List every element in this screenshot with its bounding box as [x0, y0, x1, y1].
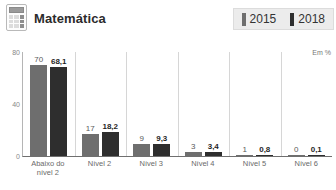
x-axis-label-3: Nível 3 [125, 159, 177, 168]
x-axis-label-1: Abaixo donível 2 [22, 159, 74, 177]
bar-2015-3[interactable]: 9 [133, 144, 150, 156]
legend-label-2015: 2015 [250, 12, 277, 26]
bar-value-label: 70 [34, 55, 43, 64]
bar-chart: Em % 04080 7068,11718,299,333,410,800,1 … [0, 46, 336, 190]
x-axis-label-6: Nível 6 [280, 159, 332, 168]
bar-value-label: 1 [243, 145, 247, 154]
legend-label-2018: 2018 [298, 12, 325, 26]
y-axis-tick: 80 [12, 49, 20, 56]
calculator-key [20, 15, 24, 19]
y-axis-tick: 0 [16, 153, 20, 160]
calculator-keys [9, 15, 24, 28]
bar-value-label: 9 [140, 134, 144, 143]
calculator-key [9, 15, 13, 19]
bar-2015-6[interactable]: 0 [288, 155, 305, 156]
legend-item-2015[interactable]: 2015 [242, 12, 277, 26]
x-axis-label-line: Nível 5 [229, 159, 281, 168]
plot-area: 04080 7068,11718,299,333,410,800,1 [22, 52, 332, 157]
calculator-key [9, 24, 13, 28]
bar-fill [288, 155, 305, 156]
bar-fill [102, 132, 119, 156]
bar-fill [185, 152, 202, 156]
bar-fill [236, 155, 253, 156]
x-axis-label-line: nível 2 [22, 168, 74, 177]
bar-2018-1[interactable]: 68,1 [50, 67, 67, 156]
calculator-key [14, 24, 18, 28]
calculator-key [20, 24, 24, 28]
calculator-key [14, 20, 18, 24]
bar-fill [153, 144, 170, 156]
bar-group: 7068,1 [23, 52, 75, 156]
bar-2015-2[interactable]: 17 [82, 134, 99, 156]
bar-value-label: 0,1 [311, 145, 322, 154]
bar-group: 00,1 [281, 52, 333, 156]
bar-2015-4[interactable]: 3 [185, 152, 202, 156]
bar-group: 1718,2 [75, 52, 127, 156]
calculator-key [14, 15, 18, 19]
x-axis-label-line: Nível 4 [177, 159, 229, 168]
legend-item-2018[interactable]: 2018 [290, 12, 325, 26]
y-axis-tick: 40 [12, 101, 20, 108]
bar-value-label: 17 [86, 124, 95, 133]
bar-value-label: 0 [294, 145, 298, 154]
bar-fill [133, 144, 150, 156]
legend-swatch-2018 [290, 13, 294, 26]
bar-fill [308, 155, 325, 156]
calculator-icon [6, 4, 27, 31]
bar-groups: 7068,11718,299,333,410,800,1 [23, 52, 332, 156]
calculator-screen [9, 7, 24, 13]
bar-value-label: 9,3 [156, 134, 167, 143]
bar-2018-5[interactable]: 0,8 [256, 155, 273, 156]
calculator-key [20, 20, 24, 24]
bar-2018-6[interactable]: 0,1 [308, 155, 325, 156]
bar-group: 33,4 [178, 52, 230, 156]
chart-header: Matemática 2015 2018 [0, 0, 336, 42]
bar-fill [30, 65, 47, 156]
bar-group: 99,3 [126, 52, 178, 156]
bar-group: 10,8 [229, 52, 281, 156]
bar-value-label: 68,1 [51, 57, 67, 66]
x-axis-label-line: Nível 6 [280, 159, 332, 168]
x-axis-label-4: Nível 4 [177, 159, 229, 168]
bar-2018-4[interactable]: 3,4 [205, 152, 222, 156]
bar-value-label: 18,2 [102, 122, 118, 131]
bar-fill [256, 155, 273, 156]
bar-value-label: 3,4 [208, 142, 219, 151]
bar-2015-1[interactable]: 70 [30, 65, 47, 156]
bar-fill [205, 152, 222, 156]
bar-fill [82, 134, 99, 156]
bar-fill [50, 67, 67, 156]
bar-value-label: 3 [191, 142, 195, 151]
bar-2018-2[interactable]: 18,2 [102, 132, 119, 156]
bar-value-label: 0,8 [259, 145, 270, 154]
legend-swatch-2015 [242, 13, 246, 26]
x-axis-label-line: Nível 2 [74, 159, 126, 168]
calculator-key [9, 20, 13, 24]
bar-2018-3[interactable]: 9,3 [153, 144, 170, 156]
page-title: Matemática [34, 11, 106, 26]
x-axis-label-line: Abaixo do [22, 159, 74, 168]
x-axis-label-line: Nível 3 [125, 159, 177, 168]
bar-2015-5[interactable]: 1 [236, 155, 253, 156]
x-axis-label-5: Nível 5 [229, 159, 281, 168]
x-axis-label-2: Nível 2 [74, 159, 126, 168]
chart-legend: 2015 2018 [233, 8, 334, 30]
